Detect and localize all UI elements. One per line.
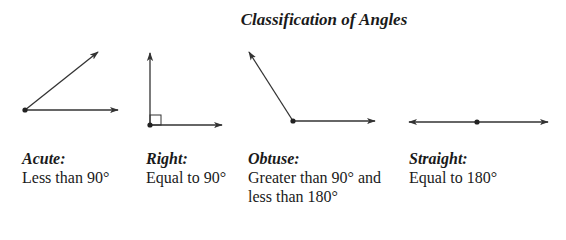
straight-description: Equal to 180° — [409, 168, 497, 187]
acute-upper-ray — [25, 52, 98, 110]
obtuse-upper-ray — [249, 52, 293, 121]
right-description: Equal to 90° — [146, 168, 226, 187]
straight-label: Straight: — [409, 149, 497, 168]
acute-vertex-dot — [22, 107, 27, 112]
obtuse-label: Obtuse: — [248, 149, 381, 168]
obtuse-caption: Obtuse: Greater than 90° and less than 1… — [248, 149, 381, 206]
right-vertex-dot — [147, 122, 152, 127]
acute-angle-figure — [22, 52, 118, 113]
obtuse-description-line1: Greater than 90° and — [248, 168, 381, 187]
straight-vertex-dot — [474, 119, 479, 124]
obtuse-angle-figure — [249, 52, 375, 124]
straight-caption: Straight: Equal to 180° — [409, 149, 497, 187]
straight-angle-figure — [409, 119, 548, 124]
obtuse-vertex-dot — [290, 118, 295, 123]
obtuse-description-line2: less than 180° — [248, 187, 381, 206]
right-caption: Right: Equal to 90° — [146, 149, 226, 187]
acute-caption: Acute: Less than 90° — [22, 149, 109, 187]
right-angle-figure — [147, 53, 222, 128]
acute-label: Acute: — [22, 149, 109, 168]
right-label: Right: — [146, 149, 226, 168]
acute-description: Less than 90° — [22, 168, 109, 187]
